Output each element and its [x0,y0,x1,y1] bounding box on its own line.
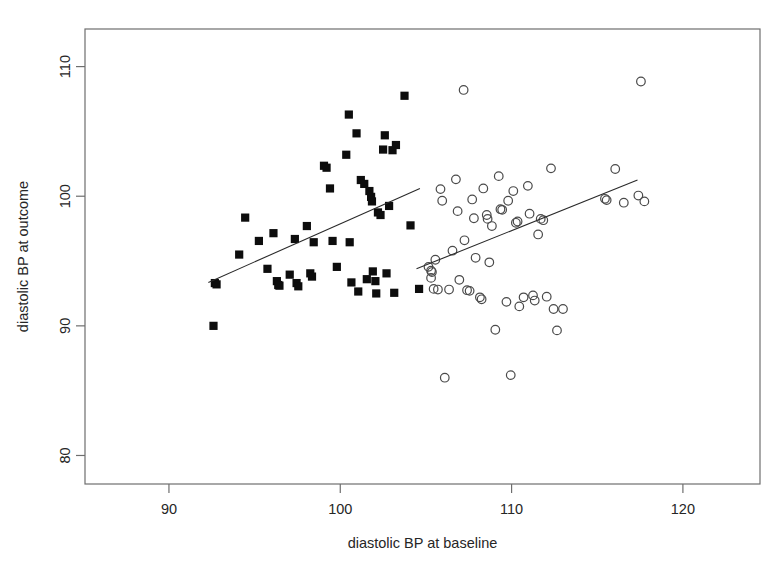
scatter-plot-figure: 90100110120 8090100110 diastolic BP at b… [0,0,783,576]
data-point-square [275,282,283,290]
data-point-square [342,151,350,159]
x-tick-label: 100 [328,501,352,517]
data-point-square [360,180,368,188]
x-tick-label: 90 [161,501,177,517]
data-point-square [303,222,311,230]
data-point-square [328,237,336,245]
data-point-square [255,237,263,245]
data-point-square [263,265,271,273]
data-point-square [369,267,377,275]
data-point-square [354,287,362,295]
data-point-square [392,141,400,149]
data-point-square [381,131,389,139]
data-point-square [345,110,353,118]
data-point-square [212,280,220,288]
y-tick-label: 80 [57,447,73,463]
data-point-square [352,129,360,137]
data-point-square [415,285,423,293]
data-point-square [308,272,316,280]
x-axis-title: diastolic BP at baseline [348,535,498,551]
y-axis-title: diastolic BP at outcome [15,181,31,332]
data-point-square [322,164,330,172]
data-point-square [347,278,355,286]
x-tick-label: 110 [500,501,523,517]
data-point-square [269,229,277,237]
data-point-square [400,92,408,100]
data-point-square [291,235,299,243]
data-point-square [346,238,354,246]
data-point-square [326,184,334,192]
data-point-square [390,289,398,297]
y-tick-label: 90 [57,318,73,334]
y-tick-label: 100 [57,184,73,208]
y-tick-label: 110 [57,55,73,78]
data-point-square [372,289,380,297]
plot-canvas: 90100110120 8090100110 diastolic BP at b… [0,0,783,576]
data-point-square [333,263,341,271]
data-point-square [406,221,414,229]
data-point-square [376,211,384,219]
plot-background [0,0,783,576]
data-point-square [368,197,376,205]
data-point-square [286,271,294,279]
data-point-square [294,282,302,290]
data-point-square [371,277,379,285]
data-point-square [310,238,318,246]
data-point-square [382,269,390,277]
data-point-square [209,322,217,330]
data-point-square [379,145,387,153]
data-point-square [235,250,243,258]
x-tick-label: 120 [671,501,695,517]
data-point-square [363,275,371,283]
data-point-square [241,214,249,222]
